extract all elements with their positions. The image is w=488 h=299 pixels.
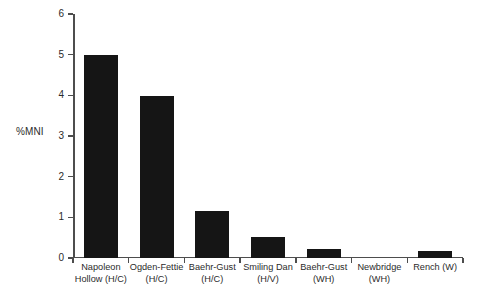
bar-slot (407, 14, 463, 258)
y-tick-label: 3 (58, 131, 64, 141)
bar-slot (240, 14, 296, 258)
bar (251, 237, 285, 258)
bar-chart: %MNI 0123456 NapoleonHollow (H/C)Ogden-F… (0, 0, 488, 299)
y-tick-label: 2 (58, 172, 64, 182)
bar (418, 251, 452, 258)
bar (307, 249, 341, 258)
y-tick-label: 6 (58, 9, 64, 19)
y-axis-title: %MNI (16, 126, 44, 137)
bar-slot (129, 14, 185, 258)
y-tick-label: 1 (58, 212, 64, 222)
y-tick-label: 4 (58, 90, 64, 100)
bar (84, 55, 118, 258)
bars-layer (73, 14, 463, 258)
plot-area: 0123456 (73, 14, 463, 258)
y-tick-label: 0 (58, 253, 64, 263)
bar-slot (352, 14, 408, 258)
y-tick-label: 5 (58, 50, 64, 60)
bar (140, 96, 174, 258)
bar (195, 211, 229, 258)
x-axis-labels: NapoleonHollow (H/C)Ogden-Fettie(H/C)Bae… (73, 262, 463, 296)
bar-slot (184, 14, 240, 258)
bar-slot (296, 14, 352, 258)
x-axis-label: Rench (W) (401, 262, 469, 274)
bar-slot (73, 14, 129, 258)
